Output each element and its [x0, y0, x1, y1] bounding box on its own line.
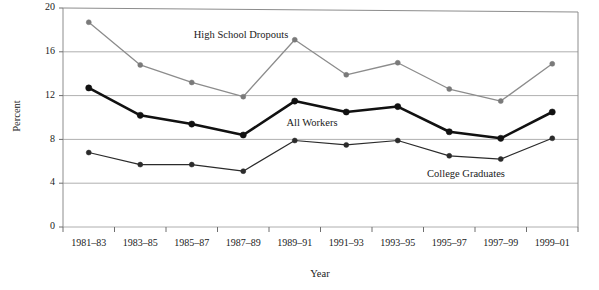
data-point	[447, 153, 452, 158]
x-tick-label: 1991–93	[329, 237, 364, 248]
x-tick-label: 1981–83	[71, 237, 106, 248]
data-point	[343, 109, 349, 115]
data-point	[395, 60, 400, 65]
x-tick-label: 1999–01	[535, 237, 570, 248]
data-point	[498, 135, 504, 141]
y-axis-title: Percent	[11, 100, 22, 132]
data-point	[241, 94, 246, 99]
y-tick-label: 12	[45, 89, 55, 100]
x-tick-label: 1997–99	[483, 237, 518, 248]
series-1	[86, 20, 555, 104]
data-point	[189, 121, 195, 127]
x-tick-label: 1987–89	[226, 237, 261, 248]
data-point	[86, 85, 92, 91]
data-point	[549, 109, 555, 115]
series-line	[89, 22, 553, 101]
chart-container: 048121620 1981–831983–851985–871987–8919…	[0, 0, 599, 290]
line-chart: 048121620 1981–831983–851985–871987–8919…	[0, 0, 599, 290]
x-tick-label: 1989–91	[277, 237, 312, 248]
series-2	[86, 85, 556, 142]
data-point	[137, 112, 143, 118]
series-annotation: High School Dropouts	[194, 29, 289, 40]
data-point	[292, 98, 298, 104]
data-point	[86, 20, 91, 25]
data-point	[138, 162, 143, 167]
y-tick-label: 8	[50, 133, 55, 144]
data-point	[550, 61, 555, 66]
data-point	[344, 72, 349, 77]
data-point	[292, 37, 297, 42]
series-annotation: College Graduates	[427, 168, 505, 179]
y-axis-ticks: 048121620	[45, 1, 63, 231]
x-tick-label: 1995–97	[432, 237, 467, 248]
data-point	[86, 150, 91, 155]
x-tick-label: 1993–95	[380, 237, 415, 248]
data-point	[241, 169, 246, 174]
y-tick-label: 0	[50, 220, 55, 231]
data-point	[344, 142, 349, 147]
data-point	[240, 132, 246, 138]
data-point	[498, 99, 503, 104]
x-axis-ticks: 1981–831983–851985–871987–891989–911991–…	[63, 227, 578, 248]
data-point	[189, 162, 194, 167]
data-series	[86, 20, 556, 174]
data-point	[189, 80, 194, 85]
y-tick-label: 16	[45, 45, 55, 56]
data-point	[395, 138, 400, 143]
y-tick-label: 20	[45, 1, 55, 12]
x-tick-label: 1985–87	[174, 237, 209, 248]
data-point	[138, 62, 143, 67]
y-tick-label: 4	[50, 176, 55, 187]
data-point	[550, 136, 555, 141]
data-point	[292, 138, 297, 143]
x-axis-title: Year	[310, 268, 330, 279]
data-point	[395, 103, 401, 109]
data-point	[446, 129, 452, 135]
series-line	[89, 138, 553, 171]
x-tick-label: 1983–85	[123, 237, 158, 248]
data-point	[447, 87, 452, 92]
series-annotation: All Workers	[286, 117, 337, 128]
data-point	[498, 157, 503, 162]
